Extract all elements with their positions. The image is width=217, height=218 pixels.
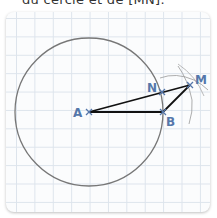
segment-am [89, 85, 190, 112]
label-n: N [147, 81, 157, 95]
label-b: B [166, 115, 175, 129]
label-a: A [73, 106, 83, 120]
label-m: M [195, 73, 207, 87]
geometry-figure: A N B M [0, 0, 217, 218]
